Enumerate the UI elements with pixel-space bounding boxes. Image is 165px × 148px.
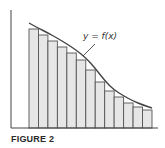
inscribed-rectangles [29,29,152,128]
riemann-rectangle [95,82,104,128]
riemann-rectangle [67,53,76,128]
riemann-rectangle [114,97,123,128]
riemann-rectangle [86,70,95,128]
riemann-rectangle [38,35,47,128]
riemann-sum-diagram [0,0,165,148]
riemann-rectangle [76,60,85,128]
riemann-rectangle [105,91,114,128]
riemann-rectangle [143,110,152,128]
riemann-rectangle [124,103,133,128]
riemann-rectangle [133,107,142,128]
riemann-rectangle [57,47,66,128]
riemann-rectangle [48,41,57,128]
label-leader-line [83,44,95,56]
riemann-rectangle [29,29,38,128]
curve-label: y = f(x) [83,31,117,41]
figure-caption: FIGURE 2 [11,134,54,144]
